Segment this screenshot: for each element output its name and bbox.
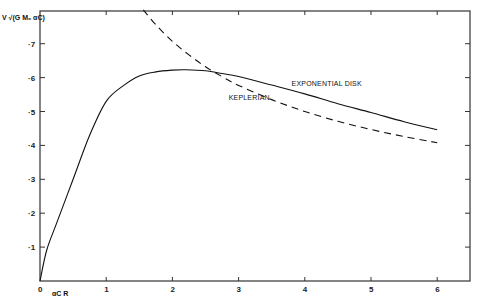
keplerian-curve: [143, 10, 437, 143]
x-tick-label: 3: [237, 285, 242, 294]
y-tick-label: ·3: [28, 175, 36, 184]
x-tick-label: 6: [435, 285, 440, 294]
x-tick-label: 4: [303, 285, 308, 294]
y-axis-label: V √(G M₀ αC): [2, 14, 45, 22]
exponential-disk-label: EXPONENTIAL DISK: [292, 80, 362, 87]
y-tick-label: ·7: [28, 40, 36, 49]
rotation-curve-chart: 0123456·1·2·3·4·5·6·7 V √(G M₀ αC) αC R …: [0, 0, 479, 303]
x-tick-label: 2: [170, 285, 175, 294]
y-tick-label: ·4: [28, 141, 36, 150]
y-tick-label: ·1: [28, 243, 36, 252]
axis-ticks: [40, 11, 470, 281]
y-tick-label: ·2: [28, 209, 36, 218]
y-tick-label: ·5: [28, 108, 36, 117]
x-tick-label: 1: [104, 285, 109, 294]
keplerian-label: KEPLERIAN: [229, 94, 270, 101]
x-tick-label: 5: [369, 285, 374, 294]
plot-border: [40, 11, 470, 281]
plot-frame: [40, 11, 470, 281]
exponential-disk-curve: [40, 70, 437, 281]
x-tick-label: 0: [38, 285, 43, 294]
x-axis-label: αC R: [52, 290, 68, 297]
data-curves: [40, 10, 437, 281]
y-tick-label: ·6: [28, 74, 36, 83]
tick-labels: 0123456·1·2·3·4·5·6·7: [28, 40, 440, 294]
